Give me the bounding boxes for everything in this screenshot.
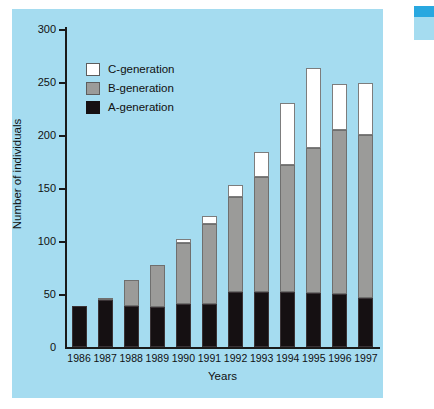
legend-label-c-generation: C-generation: [108, 63, 174, 75]
bar-segment-a-generation-1994: [280, 292, 295, 347]
x-tick-label-1997: 1997: [353, 352, 379, 364]
x-axis-title: Years: [66, 370, 379, 382]
x-tick-label-1995: 1995: [301, 352, 327, 364]
bar-segment-b-generation-1995: [306, 148, 321, 293]
y-tick-label-250: 250: [16, 77, 56, 88]
bar-segment-b-generation-1990: [176, 243, 191, 303]
bar-segment-c-generation-1993: [254, 152, 269, 177]
bar-segment-c-generation-1992: [228, 185, 243, 197]
legend-item-c-generation: C-generation: [86, 60, 174, 78]
legend-label-a-generation: A-generation: [108, 101, 174, 113]
bar-1995[interactable]: [306, 68, 321, 347]
bar-1988[interactable]: [124, 280, 139, 347]
bar-1986[interactable]: [72, 306, 87, 347]
bar-segment-a-generation-1992: [228, 292, 243, 347]
legend-item-b-generation: B-generation: [86, 79, 174, 97]
bar-segment-a-generation-1988: [124, 306, 139, 347]
x-axis-line: [65, 347, 380, 349]
bar-1990[interactable]: [176, 239, 191, 347]
legend-swatch-c-generation-icon: [86, 63, 100, 76]
bar-segment-b-generation-1994: [280, 165, 295, 292]
x-tick-label-1992: 1992: [223, 352, 249, 364]
bar-segment-c-generation-1991: [202, 216, 217, 224]
bar-1997[interactable]: [358, 83, 373, 347]
bar-segment-a-generation-1989: [150, 307, 165, 347]
y-tick-label-200: 200: [16, 130, 56, 141]
bar-segment-b-generation-1991: [202, 224, 217, 304]
x-tick-label-1988: 1988: [118, 352, 144, 364]
bar-segment-c-generation-1995: [306, 68, 321, 148]
bar-segment-a-generation-1990: [176, 304, 191, 347]
bar-segment-a-generation-1993: [254, 292, 269, 347]
bar-segment-c-generation-1997: [358, 83, 373, 135]
x-tick-label-1993: 1993: [249, 352, 275, 364]
bar-1991[interactable]: [202, 216, 217, 347]
bar-segment-b-generation-1993: [254, 177, 269, 291]
bar-segment-b-generation-1996: [332, 130, 347, 294]
bar-1994[interactable]: [280, 103, 295, 347]
y-axis-tick-labels: 300 250 200 150 100 50 0: [12, 0, 56, 409]
y-tick-label-50: 50: [16, 289, 56, 300]
x-tick-label-1989: 1989: [144, 352, 170, 364]
x-tick-label-1991: 1991: [196, 352, 222, 364]
bar-segment-a-generation-1986: [72, 306, 87, 347]
bar-segment-b-generation-1997: [358, 135, 373, 298]
bar-segment-b-generation-1988: [124, 280, 139, 305]
corner-color-swatch-accent: [414, 6, 434, 17]
y-tick-label-100: 100: [16, 236, 56, 247]
bar-1989[interactable]: [150, 265, 165, 347]
corner-color-swatch: [412, 6, 434, 40]
x-tick-label-1990: 1990: [170, 352, 196, 364]
bar-segment-b-generation-1992: [228, 197, 243, 292]
legend-swatch-b-generation-icon: [86, 82, 100, 95]
y-tick-label-0: 0: [16, 342, 56, 353]
x-tick-label-1994: 1994: [275, 352, 301, 364]
bar-1992[interactable]: [228, 185, 243, 347]
y-tick-label-150: 150: [16, 183, 56, 194]
bar-1987[interactable]: [98, 298, 113, 347]
x-tick-label-1986: 1986: [66, 352, 92, 364]
bar-segment-a-generation-1995: [306, 293, 321, 347]
bar-segment-a-generation-1991: [202, 304, 217, 347]
bar-segment-b-generation-1989: [150, 265, 165, 306]
legend-label-b-generation: B-generation: [108, 82, 174, 94]
bar-segment-a-generation-1997: [358, 298, 373, 347]
bar-segment-c-generation-1994: [280, 103, 295, 164]
legend-item-a-generation: A-generation: [86, 98, 174, 116]
legend-swatch-a-generation-icon: [86, 101, 100, 114]
bar-1993[interactable]: [254, 152, 269, 347]
x-tick-label-1987: 1987: [92, 352, 118, 364]
bar-segment-a-generation-1996: [332, 294, 347, 347]
y-tick-label-300: 300: [16, 24, 56, 35]
bar-segment-a-generation-1987: [98, 300, 113, 347]
bar-segment-c-generation-1996: [332, 84, 347, 130]
x-tick-label-1996: 1996: [327, 352, 353, 364]
legend: C-generation B-generation A-generation: [86, 60, 174, 117]
bar-1996[interactable]: [332, 84, 347, 347]
